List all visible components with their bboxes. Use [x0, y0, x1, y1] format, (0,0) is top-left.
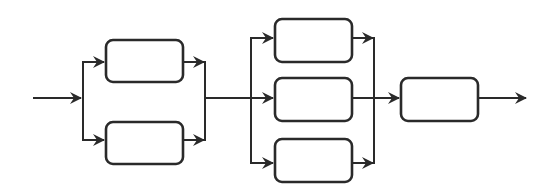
stage1-block-2: [106, 122, 183, 164]
stage2-block-3: [275, 139, 352, 182]
stage3-blocks: [401, 78, 478, 121]
stage1-block-1: [106, 40, 183, 82]
stage1-blocks: [106, 40, 183, 164]
stage2-blocks: [275, 19, 352, 182]
stage3-block-1: [401, 78, 478, 121]
stage2-block-1: [275, 19, 352, 62]
stage1-merge-connector: [183, 61, 205, 141]
stage2-merge-connector: [352, 37, 374, 164]
stage2-block-2: [275, 78, 352, 121]
stage1-split-connector: [82, 61, 104, 141]
stage2-split-connector: [250, 37, 273, 164]
block-diagram: [0, 0, 554, 194]
